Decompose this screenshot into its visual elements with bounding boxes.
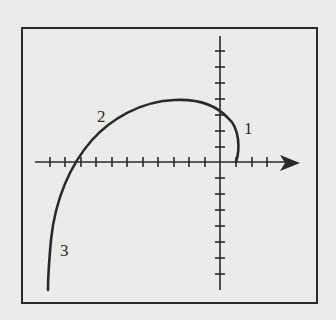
curve-label-3: 3: [60, 241, 69, 260]
x-axis-arrowhead-icon: [280, 155, 300, 171]
figure: 1 2 3: [0, 0, 336, 320]
figure-frame: [22, 28, 317, 303]
parametric-curve: [48, 100, 238, 290]
curve-label-2: 2: [97, 107, 106, 126]
curve-label-1: 1: [244, 119, 253, 138]
